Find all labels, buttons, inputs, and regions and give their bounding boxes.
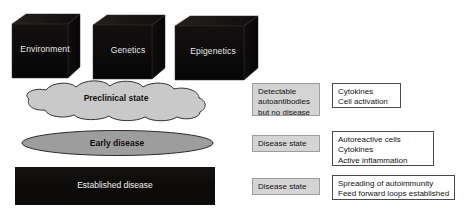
annotation-detail-box-preclinical: Cytokines Cell activation bbox=[332, 83, 401, 108]
stage-label-preclinical: Preclinical state bbox=[22, 93, 210, 103]
annotation-line: Disease state bbox=[258, 139, 315, 149]
annotation-line: Autoreactive cells bbox=[338, 135, 429, 145]
stage-label-early-disease: Early disease bbox=[22, 138, 212, 148]
autoimmune-progression-diagram: Environment Genetics Epigenetics Preclin… bbox=[0, 0, 464, 218]
annotation-state-box-established-disease: Disease state bbox=[252, 178, 320, 195]
annotation-line: Cytokines bbox=[338, 145, 429, 155]
annotation-line: Feed forward loops established bbox=[338, 189, 450, 199]
annotation-line: Detectable bbox=[258, 87, 315, 97]
factor-cube-label-environment: Environment bbox=[16, 44, 74, 54]
annotation-line: Spreading of autoimmunity bbox=[338, 179, 450, 189]
stage-label-established-disease: Established disease bbox=[15, 180, 215, 190]
factor-cube-label-genetics: Genetics bbox=[99, 45, 157, 55]
annotation-line: Disease state bbox=[258, 182, 315, 192]
annotation-detail-box-established-disease: Spreading of autoimmunity Feed forward l… bbox=[332, 175, 455, 200]
annotation-detail-box-early-disease: Autoreactive cells Cytokines Active infl… bbox=[332, 131, 434, 166]
factor-cube-label-epigenetics: Epigenetics bbox=[180, 46, 246, 56]
annotation-state-box-early-disease: Disease state bbox=[252, 135, 320, 152]
annotation-line: but no disease bbox=[258, 108, 315, 118]
annotation-line: Cell activation bbox=[338, 97, 396, 107]
annotation-line: autoantibodies bbox=[258, 97, 315, 107]
annotation-line: Cytokines bbox=[338, 87, 396, 97]
annotation-line: Active inflammation bbox=[338, 156, 429, 166]
annotation-state-box-preclinical: Detectable autoantibodies but no disease bbox=[252, 83, 320, 116]
